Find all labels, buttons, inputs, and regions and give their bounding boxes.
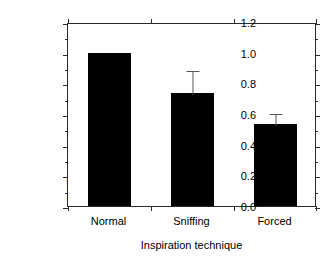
x-axis-tick	[151, 19, 152, 24]
y-axis-tick	[315, 55, 320, 56]
y-axis-minor-tick	[315, 131, 318, 132]
y-axis-minor-tick	[65, 101, 68, 102]
x-axis-tick	[316, 206, 317, 211]
bar	[171, 93, 214, 206]
plot-area	[67, 23, 316, 207]
y-axis-tick	[63, 177, 68, 178]
x-axis-tick	[151, 206, 152, 211]
y-axis-tick-label: 0.6	[241, 110, 256, 121]
y-axis-minor-tick	[65, 193, 68, 194]
x-axis-tick	[68, 206, 69, 211]
error-bar	[185, 71, 201, 95]
y-axis-tick-label: 0.8	[241, 79, 256, 90]
y-axis-minor-tick	[315, 193, 318, 194]
y-axis-tick-label: 0.4	[241, 140, 256, 151]
error-bar-cap	[186, 71, 199, 72]
y-axis-minor-tick	[65, 39, 68, 40]
y-axis-minor-tick	[315, 70, 318, 71]
error-bar-cap	[269, 114, 282, 115]
y-axis-tick-label: 0.0	[241, 202, 256, 213]
y-axis-minor-tick	[315, 162, 318, 163]
x-axis-category-label: Forced	[257, 216, 291, 227]
y-axis-tick-label: 1.2	[241, 18, 256, 29]
y-axis-minor-tick	[65, 70, 68, 71]
x-axis-title: Inspiration technique	[67, 239, 316, 251]
y-axis-tick	[63, 85, 68, 86]
y-axis-tick	[315, 147, 320, 148]
error-bar-stem	[275, 114, 276, 126]
x-axis-tick	[316, 19, 317, 24]
y-axis-tick	[315, 85, 320, 86]
y-axis-minor-tick	[65, 131, 68, 132]
bar	[254, 124, 297, 206]
y-axis-tick	[315, 177, 320, 178]
y-axis-tick	[315, 116, 320, 117]
y-axis-tick	[63, 147, 68, 148]
y-axis-minor-tick	[65, 162, 68, 163]
y-axis-tick	[63, 116, 68, 117]
x-axis-tick	[68, 19, 69, 24]
bar-chart-figure: 2,3-Butanedione concentration relative t…	[0, 0, 329, 260]
y-axis-tick	[315, 24, 320, 25]
y-axis-minor-tick	[315, 101, 318, 102]
y-axis-tick-label: 0.2	[241, 171, 256, 182]
x-axis-category-label: Sniffing	[173, 216, 210, 227]
x-axis-tick	[234, 19, 235, 24]
error-bar-stem	[192, 71, 193, 95]
y-axis-minor-tick	[315, 39, 318, 40]
bar	[88, 53, 131, 206]
y-axis-tick	[63, 55, 68, 56]
y-axis-tick	[63, 24, 68, 25]
x-axis-tick	[234, 206, 235, 211]
y-axis-tick-label: 1.0	[241, 48, 256, 59]
error-bar	[268, 114, 284, 126]
x-axis-category-label: Normal	[91, 216, 126, 227]
